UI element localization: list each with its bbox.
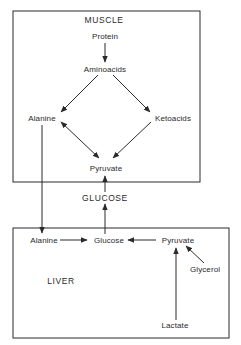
arrow-aminoacids-ketoacids bbox=[113, 75, 150, 112]
node-muscle-alanine: Alanine bbox=[28, 114, 55, 123]
liver-title: LIVER bbox=[47, 276, 75, 286]
arrow-ketoacids-pyruvate bbox=[113, 122, 151, 158]
blood-glucose: GLUCOSE bbox=[82, 193, 128, 203]
node-aminoacids: Aminoacids bbox=[84, 65, 126, 74]
arrow-aminoacids-alanine bbox=[61, 75, 98, 112]
arrow-alanine-pyruvate bbox=[61, 122, 99, 158]
node-ketoacids: Ketoacids bbox=[155, 114, 191, 123]
node-liver-glucose: Glucose bbox=[94, 236, 124, 245]
liver-box bbox=[13, 228, 229, 338]
node-lactate: Lactate bbox=[162, 321, 189, 330]
node-liver-pyruvate: Pyruvate bbox=[162, 236, 194, 245]
diagram-canvas bbox=[0, 0, 241, 345]
arrow-glycerol-pyruvate bbox=[186, 246, 204, 263]
node-protein: Protein bbox=[92, 32, 118, 41]
node-glycerol: Glycerol bbox=[190, 265, 220, 274]
muscle-title: MUSCLE bbox=[84, 15, 123, 25]
node-muscle-pyruvate: Pyruvate bbox=[90, 164, 122, 173]
node-liver-alanine: Alanine bbox=[30, 236, 57, 245]
